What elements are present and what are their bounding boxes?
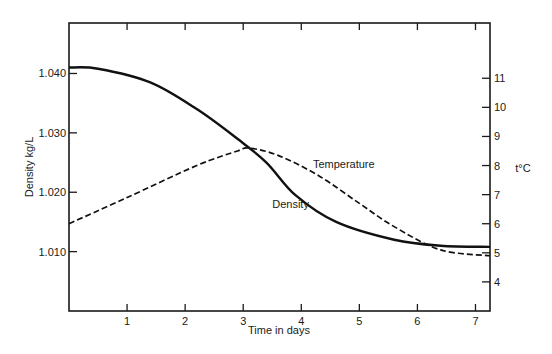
y-axis-left-ticks: 1.0101.0201.0301.040 xyxy=(38,67,77,257)
y-tick-label: 1.040 xyxy=(38,67,66,79)
y-axis-right-label: t°C xyxy=(515,162,530,174)
x-tick-label: 2 xyxy=(182,315,188,327)
temperature-annotation: Temperature xyxy=(313,158,375,170)
y2-tick-label: 8 xyxy=(494,160,500,172)
y-tick-label: 1.030 xyxy=(38,127,66,139)
y2-tick-label: 6 xyxy=(494,218,500,230)
density-temperature-chart: 1234567 1.0101.0201.0301.040 4567891011 … xyxy=(0,0,552,354)
y2-tick-label: 9 xyxy=(494,130,500,142)
density-series-line xyxy=(69,67,490,247)
y-tick-label: 1.010 xyxy=(38,246,66,258)
y2-tick-label: 4 xyxy=(494,276,500,288)
x-tick-label: 3 xyxy=(240,315,246,327)
y-tick-label: 1.020 xyxy=(38,186,66,198)
y-axis-left-label: Density kg/L xyxy=(23,137,35,198)
density-annotation: Density xyxy=(272,198,309,210)
y2-tick-label: 10 xyxy=(494,101,506,113)
y2-tick-label: 11 xyxy=(494,72,505,84)
x-tick-label: 6 xyxy=(414,315,420,327)
x-tick-label: 7 xyxy=(472,315,478,327)
x-axis-label: Time in days xyxy=(248,324,310,336)
y2-tick-label: 5 xyxy=(494,247,500,259)
plot-frame xyxy=(69,23,490,311)
y2-tick-label: 7 xyxy=(494,189,500,201)
x-tick-label: 5 xyxy=(356,315,362,327)
x-tick-label: 1 xyxy=(124,315,130,327)
